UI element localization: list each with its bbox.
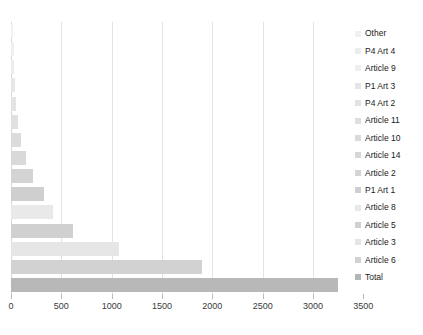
bar-fill bbox=[11, 242, 119, 256]
bar-fill bbox=[11, 205, 53, 219]
legend-item-label: Article 14 bbox=[365, 151, 400, 160]
bar-fill bbox=[11, 260, 202, 274]
bar-fill bbox=[11, 115, 18, 129]
bar-article-5[interactable] bbox=[11, 224, 73, 238]
legend-swatch-icon bbox=[355, 274, 361, 280]
x-tick-mark-2500 bbox=[263, 294, 264, 299]
legend-item-article-14[interactable]: Article 14 bbox=[355, 147, 423, 164]
x-tick-label-1500: 1500 bbox=[152, 301, 172, 311]
legend-item-label: Article 8 bbox=[365, 203, 396, 212]
legend-item-label: Article 5 bbox=[365, 221, 396, 230]
x-tick-mark-500 bbox=[61, 294, 62, 299]
legend-item-label: P1 Art 1 bbox=[365, 186, 395, 195]
x-tick-mark-0 bbox=[11, 294, 12, 299]
legend-item-label: Article 3 bbox=[365, 238, 396, 247]
bar-fill bbox=[11, 151, 26, 165]
bar-article-8[interactable] bbox=[11, 205, 53, 219]
bar-article-3[interactable] bbox=[11, 242, 119, 256]
bar-p4-art-4[interactable] bbox=[11, 42, 14, 56]
bar-fill bbox=[11, 78, 15, 92]
legend-item-article-2[interactable]: Article 2 bbox=[355, 164, 423, 181]
legend-swatch-icon bbox=[355, 152, 361, 158]
legend-item-label: P1 Art 3 bbox=[365, 82, 395, 91]
legend-item-article-10[interactable]: Article 10 bbox=[355, 129, 423, 146]
legend-swatch-icon bbox=[355, 65, 361, 71]
legend-item-article-11[interactable]: Article 11 bbox=[355, 112, 423, 129]
legend-item-article-6[interactable]: Article 6 bbox=[355, 251, 423, 268]
legend-item-label: Total bbox=[365, 273, 383, 282]
x-tick-mark-3000 bbox=[313, 294, 314, 299]
legend-swatch-icon bbox=[355, 100, 361, 106]
x-tick-label-500: 500 bbox=[54, 301, 69, 311]
bar-other[interactable] bbox=[11, 24, 13, 38]
bar-fill bbox=[11, 187, 44, 201]
legend-item-label: P4 Art 4 bbox=[365, 47, 395, 56]
x-tick-mark-2000 bbox=[212, 294, 213, 299]
gridline-2000 bbox=[212, 22, 213, 294]
legend-item-label: Article 10 bbox=[365, 134, 400, 143]
legend-item-p1-art-1[interactable]: P1 Art 1 bbox=[355, 182, 423, 199]
bar-article-10[interactable] bbox=[11, 133, 21, 147]
x-tick-mark-3500 bbox=[363, 294, 364, 299]
bar-p1-art-3[interactable] bbox=[11, 78, 15, 92]
legend-item-article-9[interactable]: Article 9 bbox=[355, 60, 423, 77]
legend-item-article-8[interactable]: Article 8 bbox=[355, 199, 423, 216]
legend-item-label: Article 11 bbox=[365, 116, 400, 125]
x-tick-label-3500: 3500 bbox=[353, 301, 373, 311]
legend-item-article-3[interactable]: Article 3 bbox=[355, 234, 423, 251]
bar-article-9[interactable] bbox=[11, 60, 14, 74]
legend-swatch-icon bbox=[355, 187, 361, 193]
legend-swatch-icon bbox=[355, 48, 361, 54]
gridline-1500 bbox=[162, 22, 163, 294]
legend-item-total[interactable]: Total bbox=[355, 268, 423, 285]
legend-item-other[interactable]: Other bbox=[355, 25, 423, 42]
legend-swatch-icon bbox=[355, 222, 361, 228]
bar-p4-art-2[interactable] bbox=[11, 97, 16, 111]
gridline-3000 bbox=[313, 22, 314, 294]
legend-item-label: Other bbox=[365, 29, 386, 38]
legend-swatch-icon bbox=[355, 170, 361, 176]
legend-item-label: Article 6 bbox=[365, 256, 396, 265]
bar-fill bbox=[11, 42, 14, 56]
legend-item-p4-art-4[interactable]: P4 Art 4 bbox=[355, 42, 423, 59]
legend-item-p4-art-2[interactable]: P4 Art 2 bbox=[355, 95, 423, 112]
legend-swatch-icon bbox=[355, 135, 361, 141]
chart-legend: OtherP4 Art 4Article 9P1 Art 3P4 Art 2Ar… bbox=[355, 25, 423, 286]
x-tick-mark-1000 bbox=[112, 294, 113, 299]
gridline-2500 bbox=[263, 22, 264, 294]
legend-swatch-icon bbox=[355, 118, 361, 124]
chart-page: 0500100015002000250030003500 OtherP4 Art… bbox=[0, 0, 423, 335]
bar-fill bbox=[11, 169, 33, 183]
bar-total[interactable] bbox=[11, 278, 338, 292]
x-axis: 0500100015002000250030003500 bbox=[0, 294, 423, 324]
x-tick-label-2500: 2500 bbox=[253, 301, 273, 311]
legend-swatch-icon bbox=[355, 205, 361, 211]
legend-swatch-icon bbox=[355, 83, 361, 89]
bar-fill bbox=[11, 224, 73, 238]
x-tick-label-0: 0 bbox=[8, 301, 13, 311]
legend-item-label: P4 Art 2 bbox=[365, 99, 395, 108]
bar-fill bbox=[11, 60, 14, 74]
legend-item-p1-art-3[interactable]: P1 Art 3 bbox=[355, 77, 423, 94]
legend-item-label: Article 2 bbox=[365, 169, 396, 178]
bar-fill bbox=[11, 133, 21, 147]
legend-swatch-icon bbox=[355, 239, 361, 245]
bar-p1-art-1[interactable] bbox=[11, 187, 44, 201]
bar-fill bbox=[11, 97, 16, 111]
x-tick-label-3000: 3000 bbox=[303, 301, 323, 311]
bar-article-2[interactable] bbox=[11, 169, 33, 183]
bar-fill bbox=[11, 278, 338, 292]
plot-area bbox=[11, 22, 313, 294]
legend-item-article-5[interactable]: Article 5 bbox=[355, 216, 423, 233]
x-tick-label-1000: 1000 bbox=[102, 301, 122, 311]
legend-swatch-icon bbox=[355, 31, 361, 37]
legend-item-label: Article 9 bbox=[365, 64, 396, 73]
x-tick-label-2000: 2000 bbox=[202, 301, 222, 311]
bar-article-11[interactable] bbox=[11, 115, 18, 129]
bar-article-6[interactable] bbox=[11, 260, 202, 274]
bar-article-14[interactable] bbox=[11, 151, 26, 165]
x-tick-mark-1500 bbox=[162, 294, 163, 299]
legend-swatch-icon bbox=[355, 257, 361, 263]
bar-fill bbox=[11, 24, 13, 38]
